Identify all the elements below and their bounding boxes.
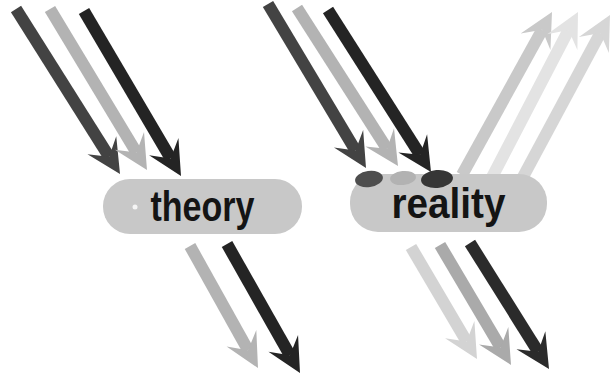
diagram-canvas: theory reality — [0, 0, 616, 381]
nodes-layer: theory reality — [103, 174, 547, 234]
theory-vs-reality-scattering-diagram: theory reality — [0, 0, 616, 381]
white-speck — [133, 205, 138, 210]
theory-label: theory — [151, 183, 256, 230]
reality-outgoing-arrow-1 — [411, 247, 477, 359]
theory-outgoing-arrow-1 — [190, 246, 258, 368]
reality-label: reality — [392, 180, 507, 227]
